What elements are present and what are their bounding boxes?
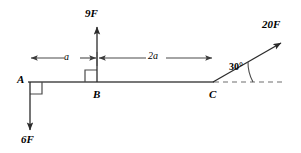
beam-diagram: A B C 6F 9F 20F a 2a 30° [0,0,301,153]
right-angle-marker-a [30,82,42,94]
point-label-a: A [17,74,24,85]
angle-label-30: 30° [229,62,243,72]
force-label-20f: 20F [262,19,280,30]
dimension-label-2a: 2a [148,51,158,61]
force-label-9f: 9F [85,8,98,19]
right-angle-marker-b [85,70,97,82]
diagram-canvas [0,0,301,153]
point-label-c: C [209,89,216,100]
force-arrow-20f [213,43,281,82]
angle-arc-30 [248,62,253,82]
point-label-b: B [93,89,100,100]
force-label-6f: 6F [21,134,34,145]
dimension-label-a: a [64,52,69,62]
